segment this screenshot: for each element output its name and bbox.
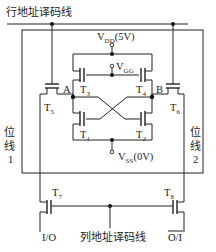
node-a-label: A [63, 84, 71, 95]
vdd-terminal [110, 43, 114, 47]
bit-line-1-label-1: 位 [4, 125, 15, 139]
vss-label: VSS(0V) [118, 151, 154, 165]
io-label: I/O [42, 232, 56, 243]
bit-line-1-label-3: 1 [8, 154, 13, 165]
t4-label: T4 [136, 84, 146, 98]
node-b-label: B [156, 84, 163, 95]
transistor-t7 [40, 200, 51, 232]
vgg-terminal [110, 64, 114, 68]
cross-coupling-a-to-t2 [73, 97, 140, 119]
bit-line-2-label-3: 2 [193, 154, 198, 165]
t8-label: T8 [164, 187, 174, 201]
vgg-label: VGG [116, 61, 134, 75]
transistor-t2 [141, 97, 152, 140]
t7-label: T7 [52, 187, 62, 201]
bit-line-2-label-1: 位 [190, 125, 201, 139]
cross-coupling-b-to-t1 [86, 97, 152, 119]
vdd-label: VDD(5V) [97, 31, 135, 45]
t3-label: T3 [80, 84, 90, 98]
transistor-t8 [173, 200, 184, 232]
t1-label: T1 [80, 129, 90, 143]
vss-terminal [110, 150, 114, 154]
bit-line-2-label-2: 线 [190, 139, 201, 153]
io-bar-label: O/I [168, 232, 183, 243]
t6-label: T6 [170, 102, 180, 116]
bit-line-1-label-2: 线 [4, 139, 15, 153]
t2-label: T2 [136, 129, 146, 143]
t5-label: T5 [44, 102, 54, 116]
column-address-line-label: 列地址译码线 [80, 230, 146, 244]
sram-cell-diagram: 行地址译码线 T5 T6 位 线 1 位 线 2 VDD(5V) VGG [0, 0, 216, 252]
row-address-line-label: 行地址译码线 [6, 5, 72, 19]
